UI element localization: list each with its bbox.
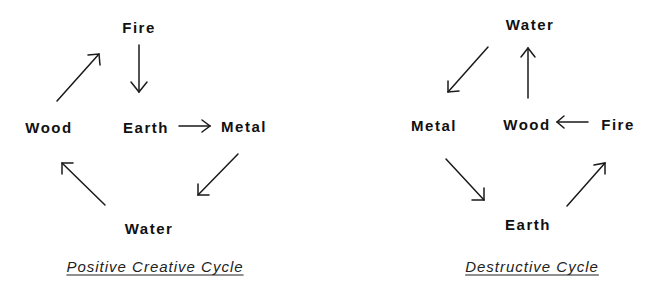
arrow-fire-to-earth (131, 45, 147, 92)
arrow-earth-to-fire (567, 163, 605, 206)
arrow-water-to-metal (448, 47, 488, 92)
arrow-metal-to-earth (446, 159, 484, 200)
arrow-earth-to-metal (179, 120, 210, 132)
destructive-node-earth: Earth (505, 217, 551, 232)
destructive-node-metal: Metal (411, 118, 457, 133)
destructive-cycle-caption: Destructive Cycle (465, 259, 599, 274)
arrows-layer (0, 0, 664, 283)
five-elements-diagram: Fire Wood Earth Metal Water Positive Cre… (0, 0, 664, 283)
creative-cycle-caption: Positive Creative Cycle (66, 259, 243, 274)
destructive-node-water: Water (506, 17, 555, 32)
creative-node-fire: Fire (122, 20, 156, 35)
arrow-fire-to-wood (557, 116, 588, 128)
arrow-wood-to-water (521, 48, 535, 98)
arrow-metal-to-water (198, 154, 238, 195)
creative-node-wood: Wood (25, 120, 72, 135)
destructive-node-fire: Fire (601, 117, 635, 132)
destructive-node-wood: Wood (503, 117, 550, 132)
creative-node-water: Water (125, 221, 174, 236)
creative-node-metal: Metal (221, 119, 267, 134)
creative-node-earth: Earth (123, 120, 169, 135)
arrow-water-to-wood (62, 163, 105, 205)
arrow-wood-to-fire (57, 54, 100, 101)
